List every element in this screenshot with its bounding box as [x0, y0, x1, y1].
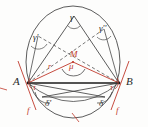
label-point-b: B [126, 76, 133, 87]
label-delta-prime: δ' [45, 99, 51, 108]
label-tangent-f-left: f [27, 106, 30, 115]
label-tau-right: τ [110, 84, 113, 92]
label-center-m: M [70, 50, 78, 59]
segment-b-to-gamma2 [104, 29, 119, 83]
segment-a-to-lower-right [28, 83, 105, 97]
label-delta: δ [99, 99, 103, 108]
diagram-canvas [0, 0, 148, 127]
tangent-tick-left [0, 88, 7, 90]
label-gamma-prime: γ' [33, 33, 38, 42]
label-gamma: γ [70, 13, 74, 22]
label-tangent-f-right: f [116, 106, 119, 115]
label-tau-left: τ [33, 84, 36, 92]
label-mu: μ [69, 62, 74, 71]
label-gamma-double-prime: γ'' [99, 24, 106, 33]
label-radius-r: r [48, 63, 51, 71]
label-point-a: A [13, 76, 20, 87]
segment-b-to-gamma1 [38, 36, 119, 83]
angle-arc-gamma2 [97, 36, 111, 40]
angle-arc-gamma1 [31, 44, 47, 49]
geometry-diagram: γ γ'' γ' M r μ A B τ τ δ' δ f f [0, 0, 148, 127]
angle-arc-gamma [68, 26, 80, 29]
segment-b-to-lower-left [42, 83, 119, 97]
